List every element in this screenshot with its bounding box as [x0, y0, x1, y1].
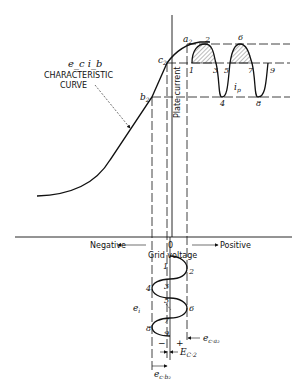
characteristic-diagram: e_c i_b CHARACTERISTIC CURVE Plate curre…: [0, 0, 304, 390]
ei-label: ei: [133, 303, 140, 314]
Ec2-label: EC·2: [179, 347, 197, 358]
grid-signal-waveform: [152, 256, 187, 336]
svg-text:9: 9: [164, 329, 169, 338]
svg-text:9: 9: [270, 66, 275, 75]
svg-text:6: 6: [189, 304, 194, 313]
hatched-region-1: [192, 44, 216, 63]
curve-label-line1: CHARACTERISTIC: [44, 71, 113, 80]
diagram-canvas: e_c i_b CHARACTERISTIC CURVE Plate curre…: [0, 0, 304, 390]
svg-text:7: 7: [164, 316, 170, 325]
svg-text:6: 6: [238, 33, 243, 42]
point-c2: c2: [158, 55, 167, 66]
svg-text:5: 5: [224, 66, 229, 75]
svg-text:8: 8: [146, 324, 151, 333]
negative-label: Negative: [90, 241, 126, 250]
minus-sign: −: [158, 338, 166, 348]
grid-voltage-label: Grid voltage: [148, 251, 197, 260]
characteristic-curve: [37, 42, 210, 196]
svg-text:5: 5: [164, 296, 169, 305]
point-a2: a2: [183, 34, 192, 45]
svg-text:1: 1: [163, 262, 168, 271]
origin-label: 0: [168, 241, 173, 250]
point-b2: b2: [140, 92, 150, 103]
ec-a2-label: ec·a₂: [203, 333, 220, 344]
svg-text:2: 2: [188, 267, 194, 276]
ip-label: ip: [234, 82, 241, 94]
svg-text:8: 8: [256, 99, 261, 108]
svg-text:1: 1: [189, 66, 194, 75]
curve-label-line2: CURVE: [60, 81, 87, 90]
svg-text:3: 3: [213, 66, 218, 75]
svg-text:2: 2: [204, 35, 210, 44]
positive-label: Positive: [220, 241, 251, 250]
plate-current-label: Plate current: [173, 67, 182, 118]
curve-label-leader: [95, 85, 130, 128]
svg-text:4: 4: [145, 284, 151, 293]
curve-symbol-label: e_c i_b: [68, 58, 102, 70]
svg-text:3: 3: [164, 282, 169, 291]
svg-text:4: 4: [219, 99, 225, 108]
ec-b2-label: ec·b₂: [154, 369, 171, 380]
